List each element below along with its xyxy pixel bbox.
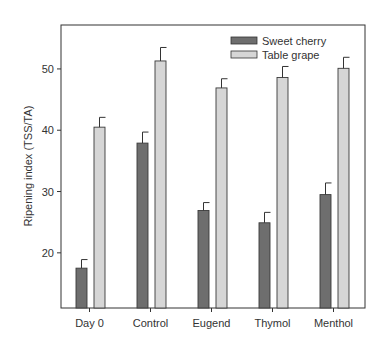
y-tick-label: 20 bbox=[42, 247, 54, 259]
bar-table-grape bbox=[94, 127, 105, 308]
x-tick-label: Menthol bbox=[314, 317, 353, 329]
bar-sweet-cherry bbox=[320, 195, 331, 308]
legend-swatch-table-grape bbox=[231, 51, 257, 58]
bar-table-grape bbox=[216, 88, 227, 308]
legend-label-sweet-cherry: Sweet cherry bbox=[262, 35, 327, 47]
bar-table-grape bbox=[277, 78, 288, 308]
bar-chart: 20304050 Day 0ControlEugendThymolMenthol… bbox=[0, 0, 386, 341]
x-axis: Day 0ControlEugendThymolMenthol bbox=[75, 308, 353, 329]
plot-frame bbox=[61, 25, 365, 308]
x-tick-label: Eugend bbox=[193, 317, 231, 329]
bar-table-grape bbox=[338, 68, 349, 308]
legend-swatch-sweet-cherry bbox=[231, 37, 257, 44]
legend-label-table-grape: Table grape bbox=[262, 49, 320, 61]
bar-sweet-cherry bbox=[259, 223, 270, 308]
x-tick-label: Day 0 bbox=[75, 317, 104, 329]
bar-table-grape bbox=[155, 61, 166, 308]
x-tick-label: Thymol bbox=[254, 317, 290, 329]
x-tick-label: Control bbox=[133, 317, 168, 329]
y-tick-label: 50 bbox=[42, 63, 54, 75]
bar-sweet-cherry bbox=[198, 211, 209, 308]
y-axis: 20304050 bbox=[42, 63, 61, 259]
y-tick-label: 40 bbox=[42, 124, 54, 136]
bar-sweet-cherry bbox=[137, 143, 148, 308]
y-axis-label: Ripening index (TSS/TA) bbox=[22, 106, 34, 227]
bar-sweet-cherry bbox=[76, 268, 87, 308]
y-tick-label: 30 bbox=[42, 186, 54, 198]
